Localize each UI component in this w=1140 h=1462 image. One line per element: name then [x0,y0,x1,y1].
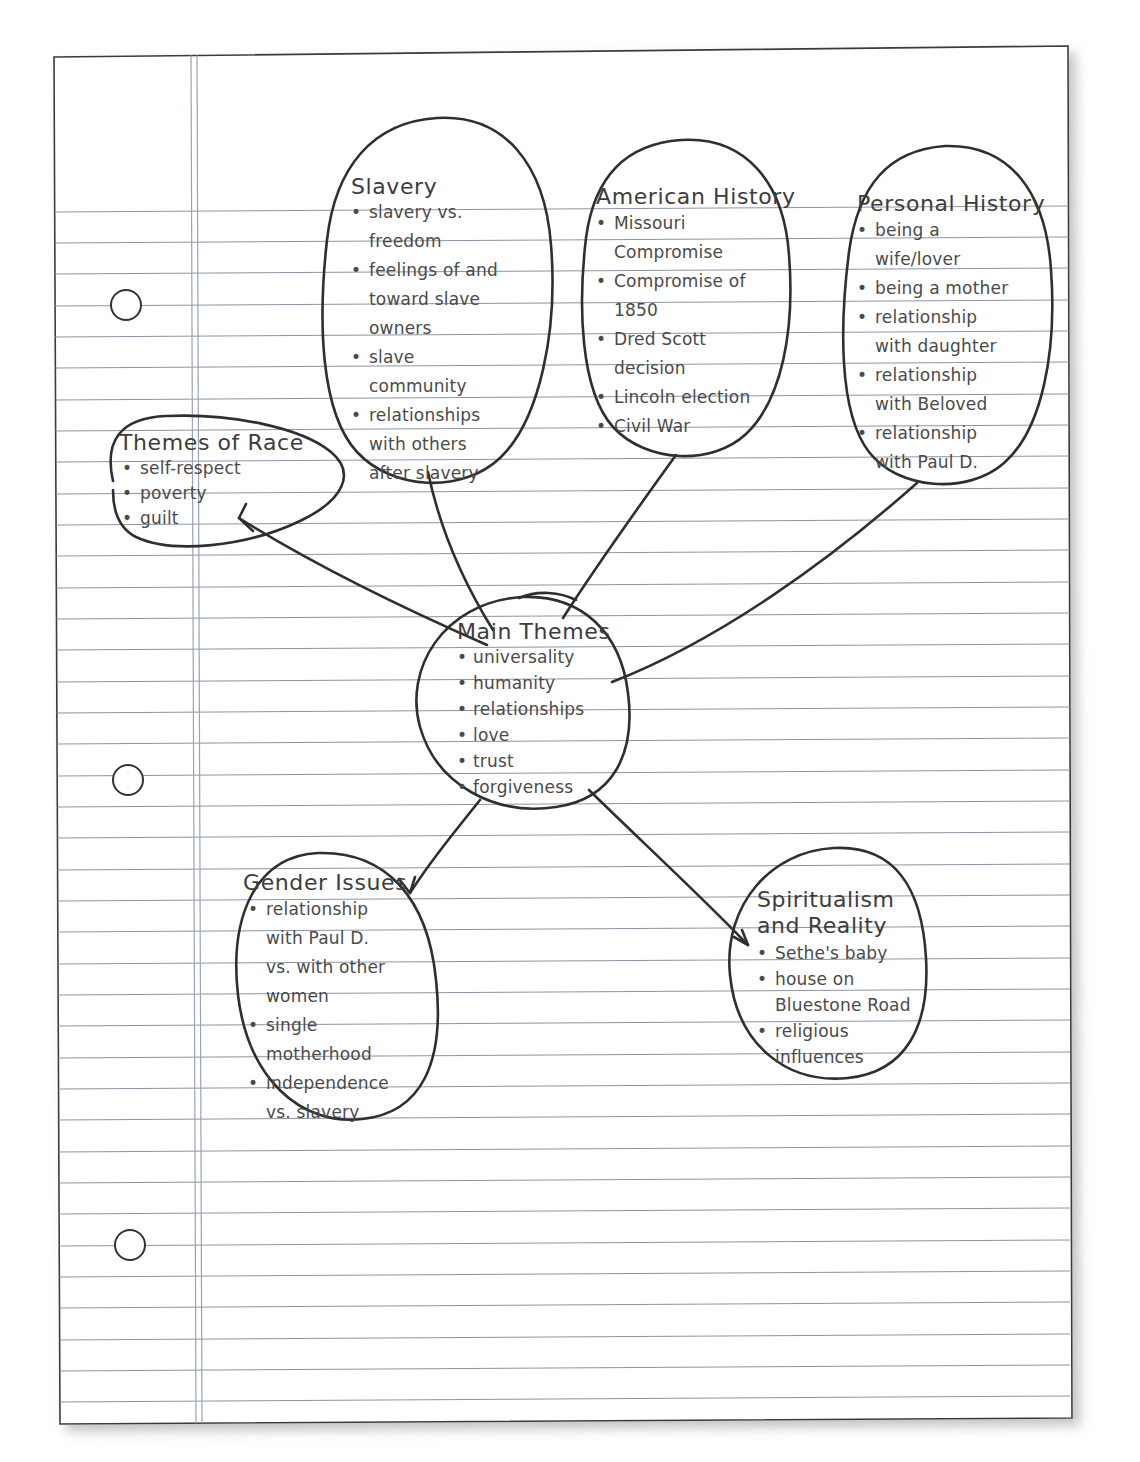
list-item: influences [775,1047,864,1067]
list-item: forgiveness [473,777,573,797]
node-slavery-title: Slavery [351,174,437,199]
list-item: poverty [140,483,207,503]
svg-text:•: • [457,699,467,719]
node-spiritualism-title-line-2: and Reality [757,913,887,938]
list-item: with Paul D. [266,928,369,948]
svg-text:•: • [857,220,867,240]
notebook-paper: Slavery • slavery vs. freedom • feelings… [0,0,1140,1462]
mind-map-page: Slavery • slavery vs. freedom • feelings… [0,0,1140,1462]
list-item: slave [369,347,415,367]
svg-text:•: • [122,483,132,503]
list-item: with others [369,434,467,454]
node-personal-history-title: Personal History [857,191,1045,216]
list-item: decision [614,358,686,378]
svg-text:•: • [596,387,606,407]
list-item: freedom [369,231,442,251]
list-item: wife/lover [875,249,960,269]
list-item: Missouri [614,213,686,233]
list-item: feelings of and [369,260,498,280]
list-item: community [369,376,467,396]
list-item: single [266,1015,318,1035]
list-item: relationship [875,307,977,327]
list-item: relationships [369,405,480,425]
list-item: 1850 [614,300,658,320]
svg-text:•: • [757,969,767,989]
hole-punch-top [111,290,141,320]
svg-text:•: • [857,365,867,385]
list-item: self-respect [140,458,241,478]
list-item: relationship [875,365,977,385]
list-item: independence [266,1073,389,1093]
svg-text:•: • [457,725,467,745]
node-main-themes-title: Main Themes [457,619,610,644]
list-item: Compromise of [614,271,746,291]
list-item: Lincoln election [614,387,750,407]
svg-text:•: • [457,673,467,693]
list-item: religious [775,1021,849,1041]
list-item: slavery vs. [369,202,463,222]
svg-text:•: • [351,260,361,280]
list-item: vs. slavery [266,1102,360,1122]
node-themes-of-race-title: Themes of Race [118,430,304,455]
list-item: love [473,725,509,745]
list-item: guilt [140,508,179,528]
svg-text:•: • [596,271,606,291]
list-item: trust [473,751,514,771]
list-item: being a [875,220,940,240]
list-item: Civil War [614,416,690,436]
svg-text:•: • [351,405,361,425]
svg-text:•: • [457,777,467,797]
svg-text:•: • [248,1073,258,1093]
svg-text:•: • [757,943,767,963]
list-item: Bluestone Road [775,995,911,1015]
svg-text:•: • [857,278,867,298]
svg-text:•: • [351,202,361,222]
svg-text:•: • [857,307,867,327]
list-item: Compromise [614,242,723,262]
list-item: relationship [266,899,368,919]
list-item: Dred Scott [614,329,706,349]
svg-text:•: • [122,508,132,528]
list-item: relationships [473,699,584,719]
list-item: toward slave [369,289,480,309]
list-item: with Beloved [875,394,987,414]
list-item: women [266,986,329,1006]
svg-text:•: • [596,329,606,349]
svg-text:•: • [248,899,258,919]
node-gender-issues-title: Gender Issues [243,870,407,895]
list-item: after slavery [369,463,479,483]
svg-text:•: • [857,423,867,443]
hole-punch-bottom [115,1230,145,1260]
node-american-history-title: American History [596,184,796,209]
svg-text:•: • [248,1015,258,1035]
hole-punch-middle [113,765,143,795]
svg-text:•: • [757,1021,767,1041]
list-item: relationship [875,423,977,443]
svg-text:•: • [457,751,467,771]
list-item: humanity [473,673,555,693]
list-item: house on [775,969,854,989]
svg-text:•: • [596,416,606,436]
svg-text:•: • [351,347,361,367]
list-item: with Paul D. [875,452,978,472]
svg-text:•: • [596,213,606,233]
list-item: owners [369,318,432,338]
list-item: motherhood [266,1044,372,1064]
list-item: Sethe's baby [775,943,888,963]
list-item: universality [473,647,575,667]
list-item: with daughter [875,336,997,356]
list-item: vs. with other [266,957,385,977]
node-spiritualism-title-line-1: Spiritualism [757,887,895,912]
svg-text:•: • [457,647,467,667]
list-item: being a mother [875,278,1008,298]
svg-text:•: • [122,458,132,478]
